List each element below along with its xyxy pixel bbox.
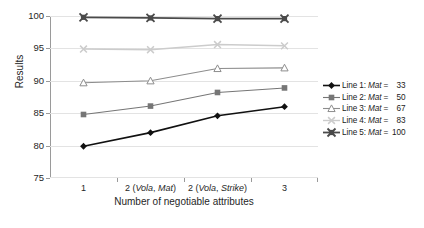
- data-point-square: [282, 85, 288, 91]
- legend-marker-cross-icon: [322, 115, 342, 126]
- y-tick-mark: [46, 178, 50, 179]
- legend-value: 50: [390, 93, 405, 102]
- y-tick-label: 90: [16, 75, 44, 86]
- legend-label: Line 4: Mat = 83: [342, 116, 405, 125]
- legend-marker-square-icon: [322, 92, 342, 103]
- y-tick-label: 100: [16, 10, 44, 21]
- legend-label: Line 2: Mat = 50: [342, 93, 405, 102]
- legend-marker-triangle-icon: [322, 103, 342, 114]
- legend-label: Line 5: Mat = 100: [342, 128, 405, 137]
- legend-item-line-1[interactable]: Line 1: Mat = 33: [322, 80, 422, 92]
- data-point-square: [148, 103, 154, 109]
- x-tick-mark: [117, 178, 118, 182]
- legend-value: 100: [390, 128, 405, 137]
- series-line-5: [80, 13, 289, 22]
- data-point-square: [81, 112, 87, 118]
- y-tick-label: 80: [16, 140, 44, 151]
- data-point-square: [329, 95, 335, 101]
- line-chart: Results 7580859095100 12 (Vola, Mat)2 (V…: [0, 0, 424, 228]
- data-point-diamond: [147, 129, 154, 136]
- x-axis-title: Number of negotiable attributes: [50, 196, 318, 207]
- series-layer: [50, 16, 318, 178]
- legend-value: 83: [390, 116, 405, 125]
- data-point-diamond: [328, 82, 335, 89]
- series-line-1: [80, 103, 288, 149]
- x-tick-label: 2 (Vola, Strike): [188, 183, 247, 193]
- data-point-diamond: [214, 112, 221, 119]
- legend-value: 33: [390, 81, 405, 90]
- legend-label: Line 1: Mat = 33: [342, 81, 405, 90]
- legend-item-line-3[interactable]: Line 3: Mat = 67: [322, 103, 422, 115]
- x-tick-label: 1: [81, 183, 86, 193]
- data-point-diamond: [281, 103, 288, 110]
- data-point-diamond: [80, 143, 87, 150]
- legend-item-line-5[interactable]: Line 5: Mat = 100: [322, 126, 422, 138]
- y-tick-label: 95: [16, 42, 44, 53]
- y-axis-title: Results: [14, 27, 25, 117]
- legend-item-line-2[interactable]: Line 2: Mat = 50: [322, 92, 422, 104]
- plot-area: 7580859095100 12 (Vola, Mat)2 (Vola, Str…: [50, 16, 318, 178]
- y-tick-label: 75: [16, 172, 44, 183]
- x-tick-mark: [184, 178, 185, 182]
- y-tick-label: 85: [16, 107, 44, 118]
- legend-value: 67: [390, 104, 405, 113]
- legend-marker-squarecross-icon: [322, 127, 342, 138]
- legend-item-line-4[interactable]: Line 4: Mat = 83: [322, 115, 422, 127]
- series-line-3: [80, 64, 288, 86]
- x-tick-mark: [251, 178, 252, 182]
- legend-marker-diamond-icon: [322, 80, 342, 91]
- legend-label: Line 3: Mat = 67: [342, 104, 405, 113]
- data-point-square: [215, 90, 221, 96]
- legend: Line 1: Mat = 33Line 2: Mat = 50Line 3: …: [322, 80, 422, 138]
- series-line-2: [81, 85, 288, 117]
- x-tick-label: 2 (Vola, Mat): [125, 183, 176, 193]
- x-tick-mark: [317, 178, 318, 182]
- series-line-4: [80, 41, 288, 53]
- x-tick-label: 3: [282, 183, 287, 193]
